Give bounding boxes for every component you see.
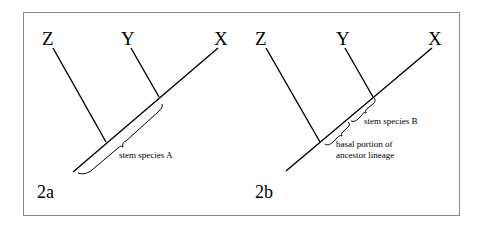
figure-border (24, 13, 460, 216)
panel-2a: Z Y X stem species A 2a (37, 28, 228, 202)
stem-species-a-label: stem species A (119, 150, 173, 160)
panel-label-2a: 2a (37, 182, 54, 202)
taxon-x: X (214, 28, 228, 49)
branch-z (266, 48, 320, 142)
taxon-z: Z (255, 28, 267, 49)
cladogram-figure: Z Y X stem species A 2a Z Y X stem speci… (0, 0, 479, 228)
panel-label-2b: 2b (255, 182, 273, 202)
basal-portion-label-line2: ancestor lineage (336, 150, 394, 160)
taxon-z: Z (42, 28, 54, 49)
branch-y (345, 48, 373, 97)
taxon-y: Y (336, 28, 350, 49)
taxon-x: X (428, 28, 442, 49)
basal-portion-label-line1: basal portion of (336, 139, 393, 149)
panel-2b: Z Y X stem species B basal portion of an… (255, 28, 442, 202)
branch-z (53, 48, 106, 142)
branch-y (131, 48, 159, 97)
taxon-y: Y (121, 28, 135, 49)
stem-species-b-label: stem species B (364, 116, 418, 126)
